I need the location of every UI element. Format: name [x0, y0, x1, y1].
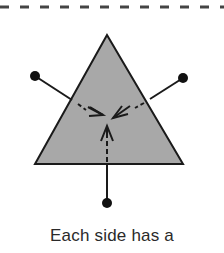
caption-text: Each side has a: [0, 226, 224, 246]
bottom-endpoint: [102, 198, 112, 208]
triangle-shape: [35, 35, 183, 164]
left-endpoint: [30, 71, 40, 81]
right-endpoint: [178, 73, 188, 83]
triangle-diagram: [0, 0, 224, 253]
